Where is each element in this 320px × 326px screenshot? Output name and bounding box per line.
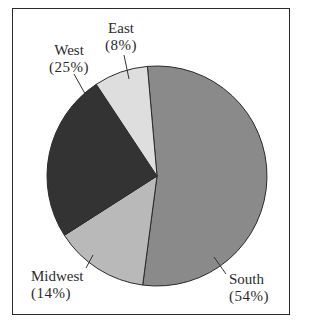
label-south-name: South (229, 271, 264, 287)
label-east: East (8%) (105, 20, 137, 54)
label-east-pct: (8%) (105, 37, 137, 54)
label-midwest: Midwest (14%) (31, 268, 84, 302)
label-midwest-name: Midwest (31, 268, 84, 284)
pie-slice-south (143, 66, 267, 286)
label-midwest-pct: (14%) (31, 285, 84, 302)
leader-line-west (74, 74, 88, 99)
label-west: West (25%) (49, 42, 89, 76)
label-south: South (54%) (229, 271, 269, 305)
pie-slices (47, 66, 267, 286)
label-west-name: West (54, 42, 84, 58)
label-west-pct: (25%) (49, 59, 89, 76)
label-south-pct: (54%) (229, 288, 269, 305)
label-east-name: East (108, 20, 134, 36)
